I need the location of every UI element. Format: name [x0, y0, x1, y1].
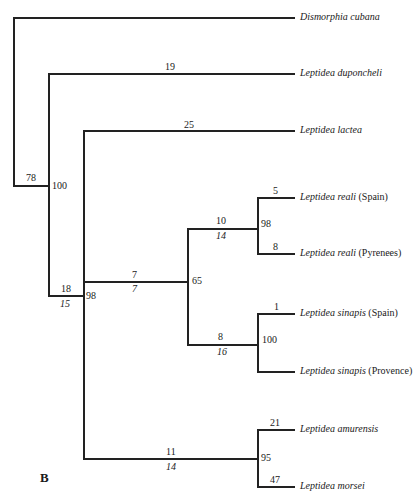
- branch-length: 7: [132, 270, 137, 280]
- bootstrap-value: 100: [262, 335, 277, 345]
- branch: [257, 429, 259, 487]
- taxon-label: Leptidea sinapis (Spain): [300, 307, 398, 319]
- branch: [83, 458, 258, 460]
- decay-index: 16: [217, 347, 227, 357]
- branch-length: 47: [270, 475, 280, 485]
- taxon-label: Leptidea reali (Pyrenees): [300, 247, 401, 259]
- branch: [257, 197, 259, 254]
- branch-length: 19: [165, 62, 175, 72]
- branch: [257, 253, 295, 255]
- branch: [83, 130, 295, 132]
- species-name: Leptidea reali: [300, 247, 356, 258]
- branch: [13, 17, 295, 19]
- branch-length: 1: [274, 302, 279, 312]
- branch: [257, 197, 295, 199]
- branch: [257, 486, 295, 488]
- species-name: Dismorphia cubana: [300, 11, 380, 22]
- branch: [257, 371, 295, 373]
- taxon-label: Leptidea sinapis (Provence): [300, 365, 412, 377]
- panel-label: B: [40, 470, 49, 486]
- species-name: Leptidea duponcheli: [300, 67, 382, 78]
- species-name: Leptidea sinapis: [300, 307, 366, 318]
- decay-index: 15: [60, 299, 70, 309]
- species-name: Leptidea morsei: [300, 480, 365, 491]
- branch: [257, 429, 295, 431]
- species-name: Leptidea sinapis: [300, 365, 366, 376]
- branch: [83, 130, 85, 459]
- locality: (Spain): [359, 191, 388, 202]
- bootstrap-value: 95: [261, 453, 271, 463]
- taxon-label: Leptidea morsei: [300, 480, 365, 492]
- species-name: Leptidea lactea: [300, 124, 362, 135]
- branch: [48, 73, 50, 296]
- locality: (Pyrenees): [359, 247, 402, 258]
- taxon-label: Leptidea reali (Spain): [300, 191, 388, 203]
- branch-length: 8: [273, 242, 278, 252]
- locality: (Spain): [368, 307, 397, 318]
- bootstrap-value: 98: [86, 291, 96, 301]
- branch: [13, 17, 15, 186]
- species-name: Leptidea reali: [300, 191, 356, 202]
- branch-length: 18: [61, 284, 71, 294]
- branch: [48, 295, 84, 297]
- branch-length: 21: [270, 418, 280, 428]
- decay-index: 14: [216, 231, 226, 241]
- branch: [257, 313, 259, 372]
- species-name: Leptidea amurensis: [300, 423, 378, 434]
- decay-index: 14: [166, 462, 176, 472]
- branch: [13, 185, 49, 187]
- taxon-label: Dismorphia cubana: [300, 11, 380, 23]
- branch-length: 5: [273, 186, 278, 196]
- taxon-label: Leptidea amurensis: [300, 423, 378, 435]
- taxon-label: Leptidea duponcheli: [300, 67, 382, 79]
- locality: (Provence): [368, 365, 412, 376]
- branch-length: 10: [216, 216, 226, 226]
- branch-length: 8: [218, 332, 223, 342]
- branch-length: 78: [26, 173, 36, 183]
- branch-length: 11: [166, 447, 176, 457]
- branch: [257, 313, 295, 315]
- branch: [187, 228, 189, 345]
- decay-index: 7: [132, 284, 137, 294]
- taxon-label: Leptidea lactea: [300, 124, 362, 136]
- branch: [48, 73, 295, 75]
- bootstrap-value: 100: [52, 181, 67, 191]
- bootstrap-value: 65: [192, 276, 202, 286]
- branch-length: 25: [184, 120, 194, 130]
- bootstrap-value: 98: [261, 219, 271, 229]
